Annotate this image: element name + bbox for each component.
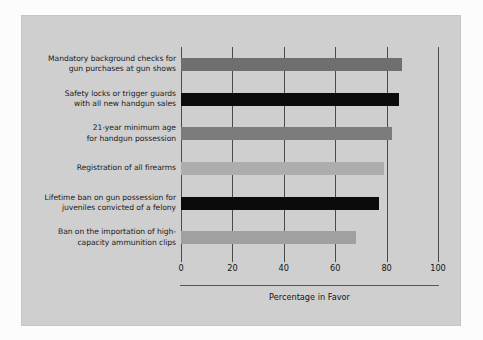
axis-rule	[180, 285, 439, 286]
category-label-line: juveniles convicted of a felony	[26, 203, 176, 214]
gridline-40	[284, 47, 285, 255]
x-tick-80	[387, 255, 388, 262]
bar	[181, 127, 392, 140]
gridline-0	[181, 47, 182, 255]
category-label-line: Ban on the importation of high-	[26, 227, 176, 238]
category-label: Safety locks or trigger guardswith all n…	[26, 89, 176, 110]
category-label-line: gun purchases at gun shows	[26, 64, 176, 75]
category-label-line: Mandatory background checks for	[26, 54, 176, 65]
bar	[181, 162, 384, 175]
category-label-line: for handgun possession	[26, 134, 176, 145]
x-tick-label: 100	[430, 263, 446, 273]
x-tick-0	[181, 255, 182, 262]
category-label: Ban on the importation of high-capacity …	[26, 227, 176, 248]
gridline-100	[438, 47, 439, 255]
x-axis: 020406080100	[181, 255, 438, 285]
category-label: Registration of all firearms	[26, 163, 176, 174]
x-tick-label: 60	[330, 263, 340, 273]
x-tick-100	[438, 255, 439, 262]
category-labels-group: Mandatory background checks forgun purch…	[24, 47, 176, 255]
category-label: Mandatory background checks forgun purch…	[26, 54, 176, 75]
bar	[181, 197, 379, 210]
category-label-line: 21-year minimum age	[26, 123, 176, 134]
category-label-line: Registration of all firearms	[26, 163, 176, 174]
gridline-60	[335, 47, 336, 255]
bar	[181, 58, 402, 71]
x-tick-label: 0	[178, 263, 183, 273]
category-label: Lifetime ban on gun possession forjuveni…	[26, 193, 176, 214]
gridline-80	[387, 47, 388, 255]
x-tick-label: 20	[227, 263, 237, 273]
category-label-line: capacity ammunition clips	[26, 238, 176, 249]
x-tick-20	[232, 255, 233, 262]
figure-canvas: Mandatory background checks forgun purch…	[0, 0, 483, 340]
bar	[181, 93, 399, 106]
category-label-line: with all new handgun sales	[26, 99, 176, 110]
x-tick-label: 80	[381, 263, 391, 273]
x-tick-60	[335, 255, 336, 262]
bar	[181, 231, 356, 244]
x-tick-label: 40	[279, 263, 289, 273]
plot-area	[181, 47, 438, 255]
gridline-20	[232, 47, 233, 255]
x-axis-title: Percentage in Favor	[181, 292, 438, 302]
category-label: 21-year minimum agefor handgun possessio…	[26, 123, 176, 144]
x-tick-40	[284, 255, 285, 262]
category-label-line: Safety locks or trigger guards	[26, 89, 176, 100]
category-label-line: Lifetime ban on gun possession for	[26, 193, 176, 204]
chart-panel: Mandatory background checks forgun purch…	[22, 16, 460, 325]
